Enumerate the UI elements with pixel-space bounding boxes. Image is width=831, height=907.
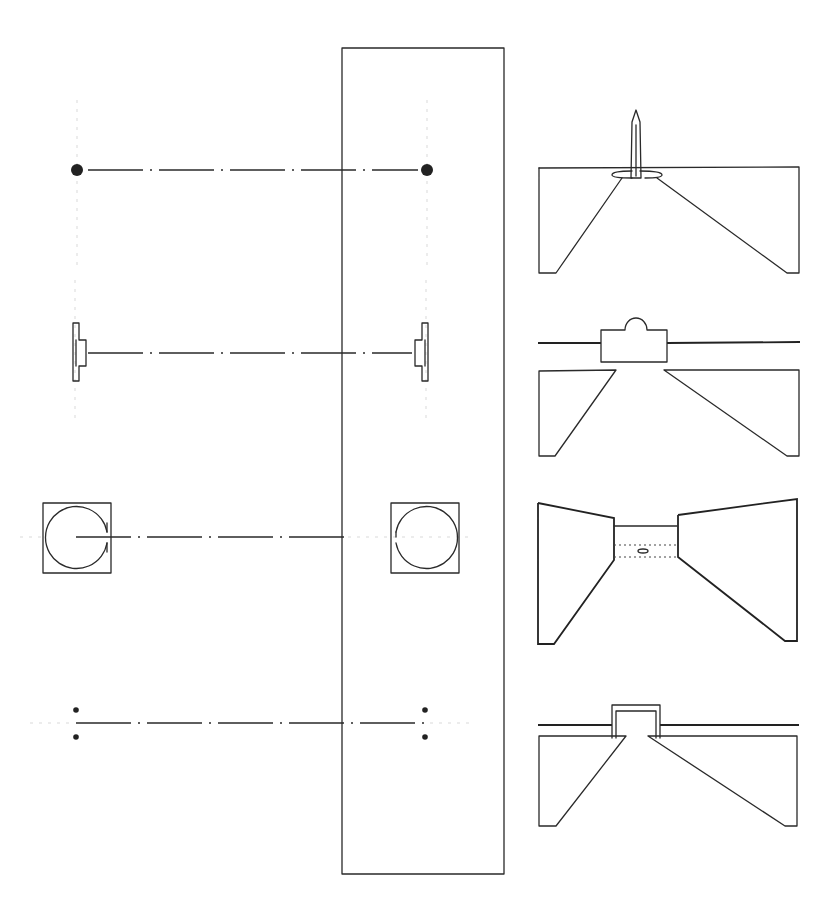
diagram-canvas xyxy=(0,0,831,907)
plan-row-1-points xyxy=(71,100,433,270)
perspective-3-passage xyxy=(538,499,797,644)
plan-row-4-paired-points xyxy=(30,707,470,740)
plan-row-3-enclosed-circles xyxy=(20,503,470,573)
plan-row-2-walls xyxy=(73,280,428,420)
perspective-4-portal xyxy=(538,705,799,826)
perspective-1-obelisk xyxy=(539,110,799,273)
perspective-2-domed-pavilion xyxy=(538,318,800,456)
